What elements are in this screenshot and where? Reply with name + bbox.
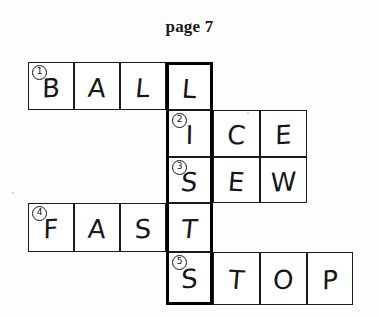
cell-letter: E: [261, 109, 307, 157]
crossword-cell-r4c2[interactable]: A: [74, 203, 120, 252]
cell-letter: S: [121, 203, 166, 252]
cell-letter: C: [212, 110, 261, 156]
crossword-cell-r3c5[interactable]: E: [213, 157, 260, 203]
clue-number-2: 2: [172, 113, 187, 128]
crossword-cell-r2c4[interactable]: 2 I: [166, 110, 213, 157]
crossword-cell-r5c7[interactable]: P: [307, 252, 353, 305]
crossword-cell-r4c1[interactable]: 4 F: [28, 203, 74, 252]
clue-number-5: 5: [172, 255, 187, 270]
crossword-cell-r1c4[interactable]: L: [166, 62, 213, 110]
clue-number-3: 3: [172, 160, 187, 175]
cell-letter: L: [167, 64, 212, 110]
crossword-grid: 1 B A L L 2 I C E 3 S E W: [0, 0, 379, 317]
crossword-cell-r4c4[interactable]: T: [166, 203, 213, 252]
crossword-cell-r5c4[interactable]: 5 S: [166, 252, 213, 305]
crossword-cell-r2c6[interactable]: E: [260, 110, 307, 157]
cell-letter: O: [259, 252, 308, 304]
scan-speck: [12, 192, 14, 194]
crossword-cell-r2c5[interactable]: C: [213, 110, 260, 157]
crossword-cell-r3c6[interactable]: W: [260, 157, 307, 203]
cell-letter: L: [119, 63, 168, 110]
clue-number-4: 4: [32, 206, 47, 221]
clue-number-1: 1: [32, 65, 47, 80]
crossword-cell-r5c6[interactable]: O: [260, 252, 307, 305]
cell-letter: T: [212, 252, 261, 305]
crossword-cell-r5c5[interactable]: T: [213, 252, 260, 305]
cell-letter: W: [261, 157, 307, 203]
cell-letter: A: [73, 62, 121, 109]
worksheet-page: page 7 1 B A L L 2 I C E 3 S: [0, 0, 379, 317]
scan-speck: [247, 112, 249, 114]
cell-letter: T: [167, 204, 213, 252]
crossword-cell-r1c2[interactable]: A: [74, 62, 120, 110]
crossword-cell-r1c1[interactable]: 1 B: [28, 62, 74, 110]
crossword-cell-r4c3[interactable]: S: [120, 203, 166, 252]
cell-letter: E: [212, 157, 261, 203]
crossword-cell-r3c4[interactable]: 3 S: [166, 157, 213, 203]
cell-letter: P: [308, 252, 353, 305]
cell-letter: A: [73, 203, 121, 251]
crossword-cell-r1c3[interactable]: L: [120, 62, 166, 110]
